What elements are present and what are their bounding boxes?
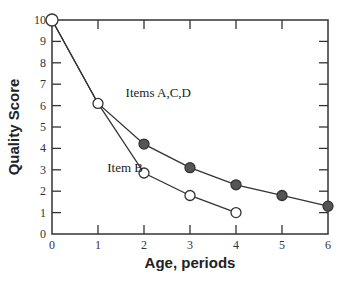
y-tick-label: 1	[40, 206, 46, 220]
open-circle-marker	[93, 98, 103, 108]
x-axis-ticks: 0123456	[49, 20, 331, 252]
plot-frame	[52, 20, 328, 234]
series-label: Items A,C,D	[126, 85, 191, 100]
x-axis-title: Age, periods	[145, 254, 236, 271]
x-tick-label: 1	[95, 238, 101, 252]
x-tick-label: 5	[279, 238, 285, 252]
y-axis-title: Quality Score	[5, 79, 22, 176]
y-tick-label: 5	[40, 120, 46, 134]
series-line-0	[52, 20, 328, 206]
x-tick-label: 3	[187, 238, 193, 252]
y-tick-label: 10	[34, 13, 46, 27]
series-label: Item B	[107, 160, 143, 175]
filled-circle-marker	[323, 201, 333, 211]
y-tick-label: 4	[40, 141, 46, 155]
y-tick-label: 9	[40, 34, 46, 48]
filled-circle-marker	[231, 180, 241, 190]
data-series	[46, 14, 333, 218]
plot-border	[52, 20, 328, 234]
x-tick-label: 6	[325, 238, 331, 252]
filled-circle-marker	[185, 163, 195, 173]
x-tick-label: 2	[141, 238, 147, 252]
y-axis-ticks: 012345678910	[34, 13, 328, 241]
open-circle-marker	[231, 208, 241, 218]
y-tick-label: 6	[40, 99, 46, 113]
y-tick-label: 7	[40, 77, 46, 91]
y-tick-label: 2	[40, 184, 46, 198]
y-tick-label: 3	[40, 163, 46, 177]
open-circle-marker	[185, 190, 195, 200]
series-line-1	[52, 20, 236, 213]
line-chart: 0123456 012345678910 Items A,C,DItem B A…	[0, 0, 348, 281]
y-tick-label: 8	[40, 56, 46, 70]
filled-circle-marker	[139, 139, 149, 149]
open-circle-marker	[46, 14, 58, 26]
x-tick-label: 4	[233, 238, 239, 252]
x-tick-label: 0	[49, 238, 55, 252]
filled-circle-marker	[277, 190, 287, 200]
y-tick-label: 0	[40, 227, 46, 241]
